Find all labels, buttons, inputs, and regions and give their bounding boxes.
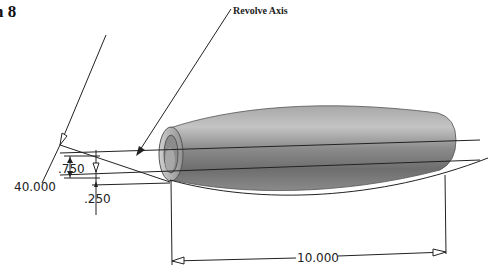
offset-lower-value: .250 [84, 192, 111, 206]
offset-upper-value: .750 [58, 162, 85, 176]
cad-drawing: 40.000 .750 .250 10.000 [0, 0, 490, 272]
length-dimension-value: 10.000 [297, 251, 339, 265]
barrel-part [60, 106, 480, 191]
angle-dimension [42, 35, 170, 183]
angle-dimension-value: 40.000 [14, 180, 56, 194]
